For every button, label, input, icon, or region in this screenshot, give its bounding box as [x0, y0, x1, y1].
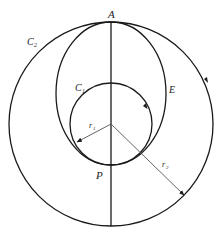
label-a: A [107, 8, 115, 20]
label-p: P [95, 169, 103, 181]
label-e: E [168, 84, 175, 95]
label-c2: C [27, 36, 34, 47]
label-c1: C [75, 82, 82, 93]
label-r1-sub: 1 [93, 126, 96, 131]
orbit-diagram: A P E C 2 C 1 r 1 r 2 [0, 0, 220, 234]
label-c2-sub: 2 [34, 42, 37, 48]
label-c1-sub: 1 [82, 88, 85, 94]
radius-r2-arrow [111, 124, 184, 195]
label-r2-sub: 2 [166, 165, 169, 170]
